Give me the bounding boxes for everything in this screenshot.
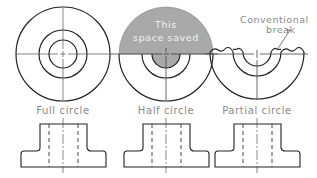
annotation-space-saved: space saved [133,32,199,43]
diagram-canvas: This space saved Conventional break Full… [0,0,317,178]
label-full-circle: Full circle [36,105,89,116]
front-view-partial [215,118,300,173]
break-line [210,48,233,53]
annotation-break: break [266,24,295,35]
annotation-this: This [154,19,177,30]
label-partial-circle: Partial circle [222,105,292,116]
front-view-half [124,118,209,173]
label-half-circle: Half circle [138,105,194,116]
saved-space-shade [119,7,213,54]
full-circle-view [16,7,110,101]
front-view-full [21,118,106,173]
partial-circle-view: Conventional break [205,14,309,100]
half-circle-view: This space saved [110,7,218,101]
